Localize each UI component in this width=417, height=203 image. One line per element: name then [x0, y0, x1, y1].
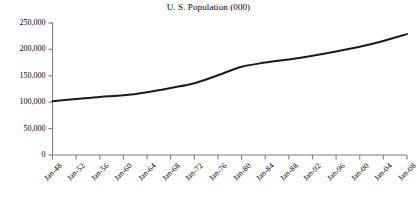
chart-container: U. S. Population (000) 250,000200,000150…: [0, 0, 417, 203]
x-axis-tick-labels: Jan-48Jan-52Jan-56Jan-60Jan-64Jan-68Jan-…: [0, 0, 417, 203]
